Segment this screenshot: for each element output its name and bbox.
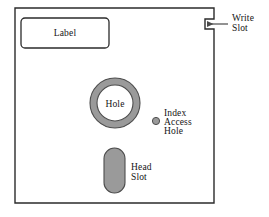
index-access-hole-label-line3: Hole bbox=[164, 126, 183, 136]
disk-label-text: Label bbox=[54, 28, 77, 38]
head-slot-label-line2: Slot bbox=[131, 172, 147, 182]
center-hole-label: Hole bbox=[105, 99, 124, 109]
floppy-disk-diagram: Label Hole Index Access Hole Head Slot W… bbox=[0, 0, 269, 217]
write-slot-label-line2: Slot bbox=[232, 23, 248, 33]
floppy-disk-illustration: Label Hole Index Access Hole Head Slot W… bbox=[0, 0, 269, 217]
index-access-hole-dot bbox=[152, 117, 159, 124]
head-slot-shape bbox=[104, 148, 125, 193]
write-slot-label-line1: Write bbox=[232, 13, 254, 23]
head-slot-label-line1: Head bbox=[131, 162, 152, 172]
